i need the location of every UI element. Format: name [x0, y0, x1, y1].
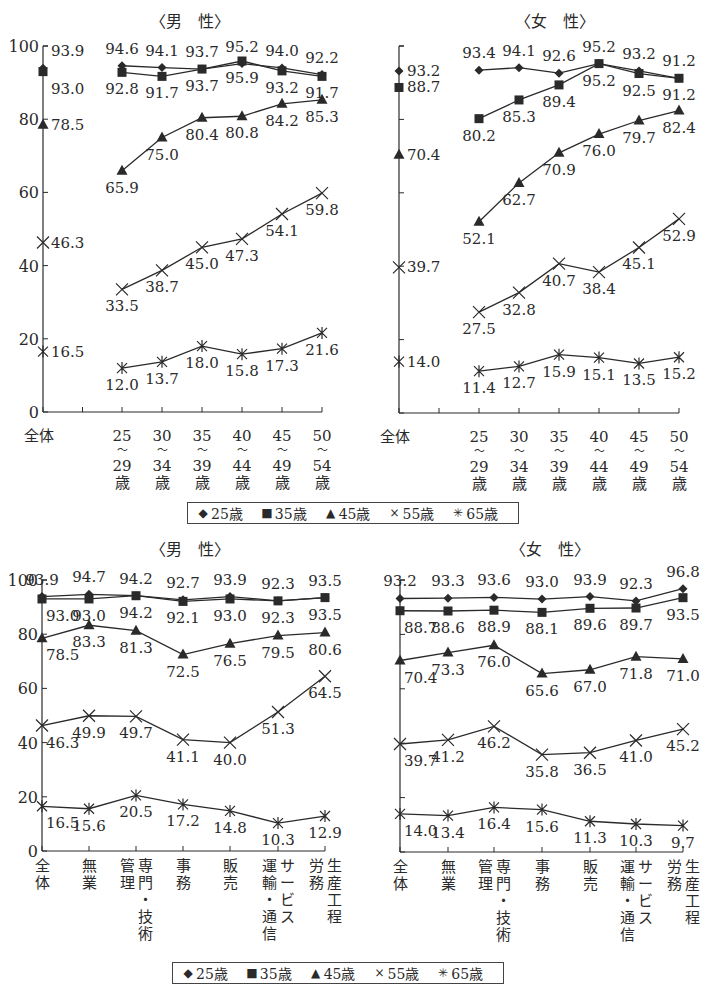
x-category-label: 29	[112, 457, 131, 475]
x-category-label: 術	[496, 926, 511, 944]
square-marker-icon	[555, 80, 564, 89]
square-marker-icon	[238, 57, 247, 66]
diamond-marker-icon	[395, 66, 404, 75]
x-category-label: 40	[232, 427, 251, 445]
x-category-label: ス	[638, 909, 653, 927]
triangle-marker-icon	[631, 651, 642, 661]
x-category-label: 体	[35, 874, 50, 892]
triangle-marker-icon	[157, 132, 168, 142]
x-category-label: 39	[192, 457, 211, 475]
legend-label: 45歳	[339, 503, 371, 523]
series-65歳: 14.011.412.715.915.113.515.2	[394, 349, 696, 398]
x-category-label: 全	[393, 858, 408, 876]
square-marker-icon	[321, 593, 330, 602]
x-category-label: 工	[685, 892, 700, 910]
data-label: 93.4	[462, 44, 495, 62]
triangle-marker-icon	[489, 639, 500, 649]
x-category-label: 34	[152, 457, 171, 475]
x-category-label: 29	[469, 458, 488, 476]
x-category-label: 務	[176, 874, 191, 892]
x-category-label: 専	[496, 858, 511, 876]
data-label: 27.5	[462, 320, 495, 338]
square-marker-icon	[198, 65, 207, 74]
legend-label: 55歳	[402, 503, 434, 523]
data-label: 65.6	[525, 682, 558, 700]
data-label: 76.0	[582, 142, 615, 160]
asterisk-marker-icon	[197, 340, 207, 352]
data-label: 93.0	[51, 80, 84, 98]
triangle-marker-icon	[537, 668, 548, 678]
data-label: 89.4	[542, 93, 575, 111]
series-line	[122, 61, 322, 76]
legend-item-25歳: ◆25歳	[182, 963, 228, 983]
data-label: 92.3	[619, 575, 652, 593]
x-category-label: 30	[509, 428, 528, 446]
data-label: 93.2	[622, 45, 655, 63]
data-label: 88.9	[477, 618, 510, 636]
series-65歳: 16.512.013.718.015.817.321.6	[38, 327, 339, 394]
data-label: 93.9	[213, 571, 246, 589]
data-label: 93.7	[185, 43, 218, 61]
data-label: 41.2	[431, 748, 464, 766]
cross-marker-icon	[276, 208, 288, 220]
data-label: 39.7	[407, 258, 440, 276]
x-category-label: 〜	[237, 444, 248, 457]
y-tick-label: 0	[29, 403, 39, 422]
series-45歳: 70.452.162.770.976.079.782.4	[394, 105, 696, 248]
data-label: 70.9	[542, 161, 575, 179]
legend-item-55歳: ×55歳	[373, 963, 419, 983]
data-label: 79.5	[261, 644, 294, 662]
data-label: 13.4	[431, 824, 464, 842]
data-label: 95.2	[582, 38, 615, 56]
x-category-label: 〜	[474, 445, 485, 458]
cross-marker-icon	[236, 233, 248, 245]
square-marker-icon	[132, 591, 141, 600]
y-tick-label: 20	[18, 788, 38, 807]
x-category-label: 無	[441, 858, 456, 876]
data-label: 88.6	[431, 619, 464, 637]
triangle-marker-icon	[38, 119, 49, 129]
x-category-label: 40	[589, 428, 608, 446]
legend-item-45歳: ▲45歳	[310, 963, 356, 983]
data-label: 15.9	[542, 363, 575, 381]
x-category-label: 通	[620, 909, 635, 927]
series-45歳: 78.583.381.372.576.579.580.6	[37, 619, 342, 680]
data-label: 80.8	[225, 124, 258, 142]
data-label: 32.8	[502, 301, 535, 319]
data-label: 65.9	[105, 179, 138, 197]
square-icon: ■	[261, 506, 273, 520]
data-label: 14.8	[213, 819, 246, 837]
x-category-label: サ	[638, 858, 653, 876]
data-label: 9.7	[671, 834, 695, 852]
data-label: 45.0	[185, 255, 218, 273]
data-label: 94.1	[145, 42, 178, 60]
x-category-label: 管	[478, 858, 493, 876]
diamond-marker-icon	[555, 69, 564, 78]
legend-item-25歳: ◆25歳	[197, 503, 243, 523]
legend-item-55歳: ×55歳	[388, 503, 434, 523]
x-category-label: 販	[583, 858, 598, 876]
cross-marker-icon	[677, 723, 689, 735]
x-category-label: 輸	[262, 874, 277, 892]
data-label: 11.4	[462, 379, 495, 397]
data-label: 14.0	[407, 353, 440, 371]
diamond-marker-icon	[396, 594, 405, 603]
x-category-label: 生	[685, 858, 700, 876]
x-category-label: 歳	[235, 474, 250, 492]
data-label: 93.6	[477, 571, 510, 589]
legend-item-45歳: ▲45歳	[325, 503, 371, 523]
cross-marker-icon	[319, 670, 331, 682]
diamond-marker-icon	[586, 592, 595, 601]
x-category-label: ス	[280, 908, 295, 926]
triangle-marker-icon	[678, 653, 689, 663]
square-marker-icon	[274, 596, 283, 605]
data-label: 13.5	[622, 371, 655, 389]
series-55歳: 46.333.538.745.047.354.159.8	[37, 187, 339, 315]
data-label: 93.0	[525, 573, 558, 591]
x-category-label: サ	[280, 857, 295, 875]
x-category-label: 歳	[512, 475, 527, 493]
triangle-icon: ▲	[325, 506, 337, 520]
data-label: 94.1	[502, 42, 535, 60]
data-label: 80.6	[308, 641, 341, 659]
data-label: 83.3	[72, 633, 105, 651]
